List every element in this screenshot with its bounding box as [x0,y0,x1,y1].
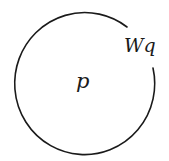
diagram-canvas: p Wq [0,0,169,161]
boundary-label: Wq [124,34,156,56]
center-label: p [76,69,89,93]
